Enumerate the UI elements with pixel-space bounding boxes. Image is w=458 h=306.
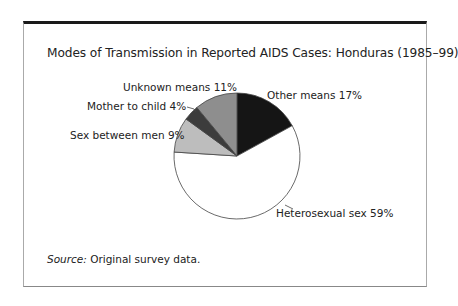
label-heterosexual-sex: Heterosexual sex 59% [276, 207, 393, 219]
source-note: Source: Original survey data. [47, 253, 200, 265]
label-sex-between-men: Sex between men 9% [70, 129, 185, 141]
label-mother-to-child: Mother to child 4% [87, 100, 186, 112]
source-label: Source: [47, 253, 87, 265]
source-text: Original survey data. [87, 253, 200, 265]
label-other-means: Other means 17% [267, 89, 362, 101]
label-unknown-means: Unknown means 11% [123, 81, 237, 93]
